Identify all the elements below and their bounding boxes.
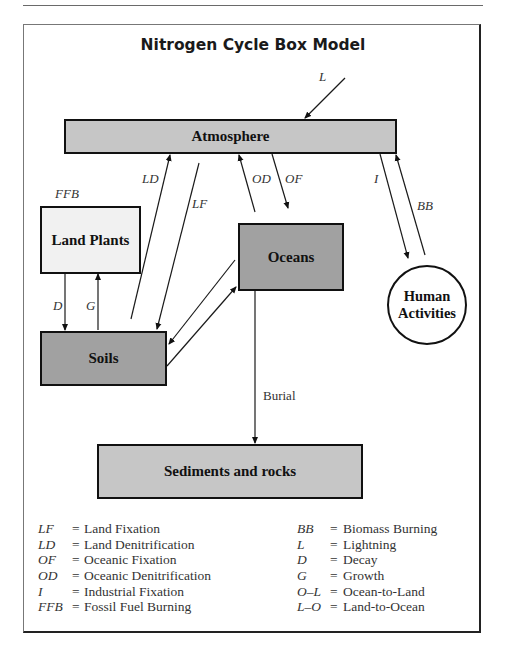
atmosphere-box: Atmosphere: [64, 119, 397, 154]
legend-item: OF = Oceanic Fixation: [38, 552, 238, 568]
legend-item: FFB = Fossil Fuel Burning: [38, 599, 238, 615]
label-G: G: [86, 299, 95, 312]
label-LD: LD: [142, 172, 159, 185]
human-activities-label-line2: Activities: [398, 305, 456, 322]
sediments-label: Sediments and rocks: [164, 463, 296, 480]
legend-item: LF = Land Fixation: [38, 521, 238, 537]
label-L: L: [319, 70, 326, 83]
legend-item: I = Industrial Fixation: [38, 584, 238, 600]
label-OD: OD: [252, 172, 271, 185]
legend-right: BB = Biomass Burning L = Lightning D = D…: [297, 521, 477, 615]
legend-item: BB = Biomass Burning: [297, 521, 477, 537]
sediments-box: Sediments and rocks: [97, 444, 363, 499]
land-plants-box: Land Plants: [40, 206, 141, 274]
arrow-land-to-ocean: [167, 287, 236, 366]
label-D: D: [53, 299, 62, 312]
human-activities-circle: Human Activities: [387, 265, 467, 345]
arrow-lightning: [305, 78, 345, 118]
arrow-industrial-fixation: [380, 154, 408, 258]
atmosphere-label: Atmosphere: [191, 128, 269, 145]
legend-item: L = Lightning: [297, 537, 477, 553]
soils-label: Soils: [88, 350, 118, 367]
legend-left: LF = Land Fixation LD = Land Denitrifica…: [38, 521, 238, 615]
legend-item: LD = Land Denitrification: [38, 537, 238, 553]
label-I: I: [374, 172, 378, 185]
label-LF: LF: [192, 197, 207, 210]
arrow-ocean-to-land: [169, 260, 235, 344]
legend-item: G = Growth: [297, 568, 477, 584]
land-plants-label: Land Plants: [52, 232, 130, 249]
label-burial: Burial: [263, 389, 296, 402]
legend-item: OD = Oceanic Denitrification: [38, 568, 238, 584]
label-BB: BB: [417, 199, 433, 212]
soils-box: Soils: [40, 331, 167, 386]
oceans-label: Oceans: [268, 249, 315, 266]
oceans-box: Oceans: [238, 223, 344, 291]
arrow-land-fixation: [157, 163, 199, 329]
legend-item: O–L = Ocean-to-Land: [297, 584, 477, 600]
legend-item: D = Decay: [297, 552, 477, 568]
label-OF: OF: [285, 172, 302, 185]
label-FFB: FFB: [55, 187, 79, 200]
human-activities-label-line1: Human: [404, 288, 451, 305]
legend-item: L–O = Land-to-Ocean: [297, 599, 477, 615]
